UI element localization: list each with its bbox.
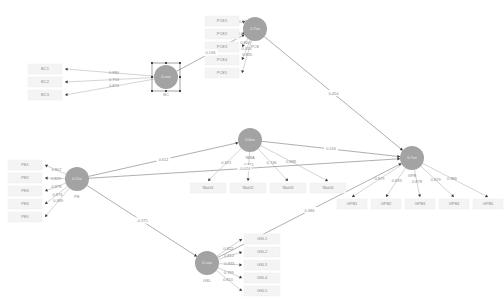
resize-handle[interactable]: [179, 62, 181, 64]
outer-loading: 0.876: [52, 192, 63, 197]
latent-gpb[interactable]: 0.7xxGPB: [400, 146, 424, 178]
indicator-label: Wahl4: [322, 185, 334, 190]
path-coefficient: 0.386: [304, 208, 315, 213]
arrow-head-icon: [45, 201, 48, 204]
path-coefficient: -0.375: [136, 218, 148, 223]
path-diagram: 0.8800.7530.8700.8790.8640.8000.8160.835…: [0, 0, 504, 306]
path-coefficient: 0.454: [328, 91, 339, 96]
indicator-label: GSL4: [257, 275, 268, 280]
indicator-label: PE2: [21, 175, 29, 180]
arrow-head-icon: [65, 68, 68, 71]
outer-loading: 0.829: [51, 176, 62, 181]
r-squared-value: 0.7xx: [407, 155, 417, 160]
latent-name: WBA: [245, 155, 254, 160]
indicator-label: PCE4: [217, 57, 228, 62]
outer-loading: 0.799: [224, 270, 235, 275]
outer-loading: 0.822: [223, 246, 234, 251]
r-squared-value: 0.xxx: [202, 260, 211, 265]
indicator-label: Wahl3: [282, 185, 294, 190]
arrow-head-icon: [386, 194, 389, 197]
resize-handle[interactable]: [179, 76, 181, 78]
path-coefficient: 0.611: [159, 157, 169, 162]
outer-loading: 0.879: [374, 176, 385, 181]
latent-name: PCE: [251, 44, 260, 49]
indicator-label: GPB3: [415, 201, 426, 206]
indicator-label: PE1: [21, 162, 29, 167]
indicator-label: PE4: [21, 201, 29, 206]
latent-name: GSL: [203, 278, 212, 283]
indicator-label: GPB4: [449, 201, 460, 206]
outer-loading: 0.878: [51, 184, 62, 189]
indicator-label: Wahl1: [202, 185, 214, 190]
outer-loading: 0.833: [392, 178, 403, 183]
indicator-label: PCE5: [217, 70, 228, 75]
indicator-label: GPB5: [483, 201, 494, 206]
arrow-head-icon: [239, 288, 242, 291]
path-coefficient: 0.136: [205, 50, 216, 55]
arrow-head-icon: [239, 239, 242, 242]
path-coefficient: 0.116: [326, 146, 336, 151]
outer-loading: 0.835: [242, 52, 253, 57]
resize-handle[interactable]: [151, 90, 153, 92]
resize-handle[interactable]: [165, 90, 167, 92]
indicator-label: BC3: [41, 92, 50, 97]
r-squared-value: 0.7xx: [72, 176, 82, 181]
outer-loading: 0.870: [109, 83, 120, 88]
indicator-label: BC2: [41, 79, 50, 84]
outer-loading: 0.812: [224, 253, 235, 258]
arrow-head-icon: [352, 194, 355, 197]
indicator-label: PCE2: [217, 31, 228, 36]
outer-loading: 0.746: [267, 160, 278, 165]
r-squared-value: 0.7xx: [250, 26, 260, 31]
indicator-label: GPB2: [381, 201, 392, 206]
indicator-label: BC1: [41, 66, 50, 71]
arrow-head-icon: [45, 177, 48, 180]
outer-loading: 0.869: [53, 198, 64, 203]
indicator-label: GSL1: [257, 236, 268, 241]
outer-loading: 0.753: [109, 77, 120, 82]
indicator-label: Wahl2: [242, 185, 254, 190]
resize-handle[interactable]: [179, 90, 181, 92]
r-squared-value: 0.6xx: [245, 137, 255, 142]
arrow-head-icon: [235, 142, 238, 145]
resize-handle[interactable]: [151, 62, 153, 64]
outer-loading: 0.807: [52, 167, 63, 172]
indicator-label: PCE1: [217, 18, 228, 23]
indicator-label: GSL3: [257, 262, 268, 267]
latent-pe[interactable]: 0.7xxPE: [65, 167, 89, 199]
path-coefficient: -0.024: [239, 166, 251, 171]
indicator-label: PE3: [21, 188, 29, 193]
latent-mba[interactable]: 0.6xxWBA: [238, 128, 262, 160]
outer-loading: 0.810: [223, 277, 234, 282]
indicator-label: GSL2: [257, 249, 268, 254]
indicator-label: GPB1: [347, 201, 358, 206]
arrow-head-icon: [397, 155, 400, 158]
outer-loading: 0.821: [221, 160, 232, 165]
latent-bc[interactable]: 0.xxxBC: [151, 62, 181, 97]
outer-loading: 0.886: [447, 176, 458, 181]
resize-handle[interactable]: [151, 76, 153, 78]
indicator-label: PE5: [21, 214, 29, 219]
indicator-label: GSL5: [257, 288, 268, 293]
outer-loading: 0.880: [109, 70, 120, 75]
latent-name: PE: [74, 194, 80, 199]
latent-name: BC: [163, 92, 169, 97]
arrow-head-icon: [239, 263, 242, 266]
outer-loading: 0.888: [286, 159, 297, 164]
arrow-head-icon: [247, 178, 250, 181]
resize-handle[interactable]: [165, 62, 167, 64]
outer-loading: 0.833: [224, 261, 235, 266]
outer-loading: 0.878: [412, 179, 423, 184]
latent-gsl[interactable]: 0.xxxGSL: [195, 251, 219, 283]
r-squared-value: 0.xxx: [161, 74, 170, 79]
indicator-label: PCE3: [217, 44, 228, 49]
arrow-head-icon: [397, 157, 400, 160]
arrow-head-icon: [65, 93, 68, 96]
arrow-head-icon: [65, 80, 68, 83]
outer-loading: 0.829: [431, 177, 442, 182]
arrow-head-icon: [418, 194, 421, 197]
latent-name: GPB: [408, 173, 417, 178]
